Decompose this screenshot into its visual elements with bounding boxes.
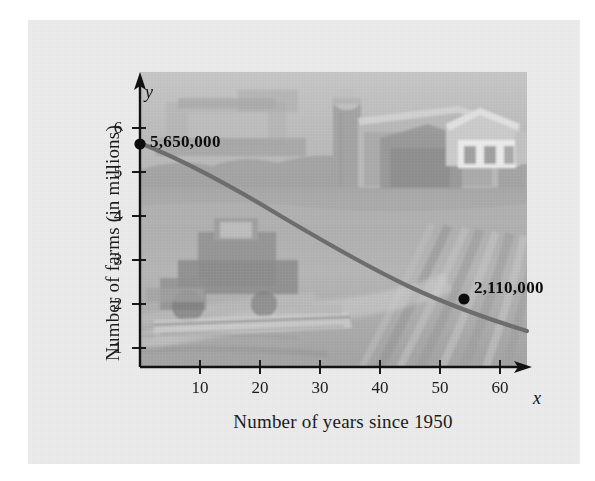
y-axis-letter: y [145, 82, 153, 103]
y-tick-label-5: 5 [108, 162, 128, 182]
y-tick-label-4: 4 [108, 206, 128, 226]
y-tick-label-2: 2 [108, 294, 128, 314]
x-tick-label-20: 20 [246, 378, 274, 398]
annotation-end-value: 2,110,000 [474, 278, 544, 298]
x-tick-label-60: 60 [486, 378, 514, 398]
scanned-paper: y x Number of farms (in millions) Number… [28, 20, 580, 464]
y-tick-label-3: 3 [108, 250, 128, 270]
x-tick-label-30: 30 [306, 378, 334, 398]
x-axis-letter: x [533, 388, 541, 409]
chart-figure: y x Number of farms (in millions) Number… [28, 20, 580, 464]
marker-end [458, 293, 469, 304]
x-tick-label-40: 40 [366, 378, 394, 398]
y-tick-label-6: 6 [108, 118, 128, 138]
farm-photograph [140, 72, 536, 367]
figure-page: y x Number of farms (in millions) Number… [0, 0, 595, 481]
x-axis-title: Number of years since 1950 [178, 411, 508, 433]
marker-start [134, 138, 145, 149]
annotation-start-value: 5,650,000 [150, 132, 221, 152]
y-tick-label-1: 1 [108, 338, 128, 358]
x-tick-label-50: 50 [426, 378, 454, 398]
x-tick-label-10: 10 [186, 378, 214, 398]
